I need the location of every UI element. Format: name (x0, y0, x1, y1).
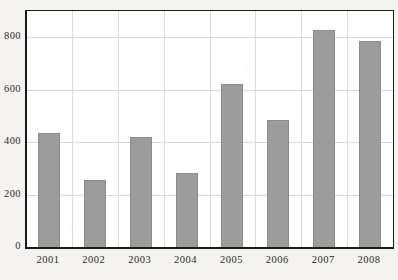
x-tick-label: 2006 (266, 254, 289, 265)
y-tick-label: 600 (0, 84, 21, 94)
x-tick-label: 2003 (128, 254, 151, 265)
gridline-vertical (72, 11, 73, 247)
x-tick-label: 2007 (312, 254, 335, 265)
y-tick-label: 0 (0, 241, 21, 251)
bar-2005 (221, 84, 243, 247)
y-tick-label: 200 (0, 189, 21, 199)
x-tick-label: 2005 (220, 254, 243, 265)
gridline-vertical (164, 11, 165, 247)
plot-area (25, 10, 394, 248)
x-tick-label: 2004 (174, 254, 197, 265)
bar-2001 (38, 133, 60, 247)
gridline-vertical (210, 11, 211, 247)
bar-2004 (176, 173, 198, 247)
bar-2006 (267, 120, 289, 247)
bar-2008 (359, 41, 381, 247)
y-tick-label: 400 (0, 136, 21, 146)
bar-2007 (313, 30, 335, 247)
x-axis-tick-labels: 20012002200320042005200620072008 (0, 254, 398, 272)
bar-chart-figure: 0200400600800 20012002200320042005200620… (0, 0, 398, 280)
y-axis-spine (25, 10, 27, 249)
bar-2003 (130, 137, 152, 247)
x-tick-label: 2001 (36, 254, 59, 265)
plot-inner (26, 11, 393, 247)
gridline-vertical (347, 11, 348, 247)
y-axis-tick-labels: 0200400600800 (0, 0, 21, 280)
x-axis-spine (25, 247, 394, 249)
x-tick-label: 2008 (358, 254, 381, 265)
gridline-vertical (255, 11, 256, 247)
gridline-vertical (301, 11, 302, 247)
x-tick-label: 2002 (82, 254, 105, 265)
y-tick-label: 800 (0, 31, 21, 41)
bar-2002 (84, 180, 106, 247)
gridline-vertical (118, 11, 119, 247)
